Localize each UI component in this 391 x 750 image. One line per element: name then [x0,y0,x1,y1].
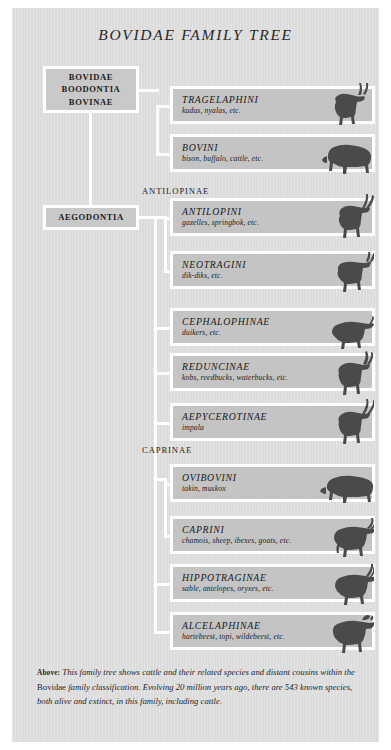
taxon-examples: sable, antelopes, oryxes, etc. [182,584,274,594]
bovidae-family-tree-page: BOVIDAE FAMILY TREE BOVIDAEBOODONTIABOVI… [0,0,391,750]
caption-roman-bovidae: Bovidae [37,682,66,692]
taxon-text-block: TRAGELAPHINIkudus, nyalas, etc. [182,94,258,117]
connector-caprinae-riser [164,478,167,535]
taxon-text-block: HIPPOTRAGINAEsable, antelopes, oryxes, e… [182,572,274,595]
connector-bovinae-riser [156,105,159,153]
connector-root-stub [139,89,159,92]
group-label-antilopinae: ANTILOPINAE [142,186,209,196]
taxon-name: HIPPOTRAGINAE [182,572,274,583]
taxon-bar-hippotraginae: HIPPOTRAGINAEsable, antelopes, oryxes, e… [170,564,375,602]
group-label-caprinae: CAPRINAE [142,445,192,455]
taxon-examples: kobs, reedbucks, waterbucks, etc. [182,373,288,383]
connector-to-tragelaphini [156,105,170,108]
taxon-text-block: BOVINIbison, buffalo, cattle, etc. [182,142,263,165]
connector-antilopinae-riser [164,216,167,270]
caption-lead: Above: [37,669,60,677]
taxon-examples: chamois, sheep, ibexes, goats, etc. [182,536,291,546]
taxon-examples: hartebeest, topi, wildebeest, etc. [182,632,285,642]
taxon-examples: impala [182,423,267,433]
taxon-bar-antilopini: ANTILOPINIgazelles, springbok, etc. [170,198,375,236]
taxon-bar-alcelaphinae: ALCELAPHINAEhartebeest, topi, wildebeest… [170,612,375,650]
taxon-name: CAPRINI [182,524,291,535]
connector-to-aepycerotinae [154,422,170,425]
taxon-name: TRAGELAPHINI [182,94,258,105]
connector-to-hippotraginae [154,583,170,586]
ancestor-box-aegodontia: AEGODONTIA [43,205,139,230]
connector-to-alcelaphinae [154,631,170,634]
taxon-name: OVIBOVINI [182,472,237,483]
page-title: BOVIDAE FAMILY TREE [12,26,379,44]
taxon-name: REDUNCINAE [182,361,288,372]
taxon-text-block: NEOTRAGINIdik-diks, etc. [182,259,246,282]
taxon-examples: kudus, nyalas, etc. [182,106,258,116]
taxon-text-block: OVIBOVINItakin, muskox [182,472,237,495]
figure-caption: Above: This family tree shows cattle and… [37,665,367,708]
connector-to-reduncinae [154,372,170,375]
taxon-text-block: CEPHALOPHINAEduikers, etc. [182,316,270,339]
ancestor-label-aegodontia: AEGODONTIA [58,211,124,223]
taxon-name: CEPHALOPHINAE [182,316,270,327]
taxon-text-block: ANTILOPINIgazelles, springbok, etc. [182,206,259,229]
taxon-name: AEPYCEROTINAE [182,411,267,422]
taxon-examples: dik-diks, etc. [182,271,246,281]
taxon-bar-tragelaphini: TRAGELAPHINIkudus, nyalas, etc. [170,86,375,124]
ancestor-label-bovidae: BOVIDAEBOODONTIABOVINAE [62,71,121,108]
diagram-panel: BOVIDAE FAMILY TREE BOVIDAEBOODONTIABOVI… [12,8,379,742]
taxon-bar-reduncinae: REDUNCINAEkobs, reedbucks, waterbucks, e… [170,353,375,391]
caption-text-2: family classification. Evolving 20 milli… [37,682,352,706]
connector-to-cephalophinae [154,327,170,330]
taxon-bar-caprini: CAPRINIchamois, sheep, ibexes, goats, et… [170,516,375,554]
taxon-name: BOVINI [182,142,263,153]
taxon-examples: takin, muskox [182,484,237,494]
taxon-bar-aepycerotinae: AEPYCEROTINAEimpala [170,403,375,441]
taxon-bar-ovibovini: OVIBOVINItakin, muskox [170,464,375,502]
taxon-name: NEOTRAGINI [182,259,246,270]
taxon-text-block: CAPRINIchamois, sheep, ibexes, goats, et… [182,524,291,547]
taxon-bar-bovini: BOVINIbison, buffalo, cattle, etc. [170,134,375,172]
taxon-bar-neotragini: NEOTRAGINIdik-diks, etc. [170,251,375,289]
ancestor-box-bovidae: BOVIDAEBOODONTIABOVINAE [43,66,139,113]
taxon-examples: bison, buffalo, cattle, etc. [182,154,263,164]
taxon-name: ANTILOPINI [182,206,259,217]
taxon-examples: duikers, etc. [182,328,270,338]
taxon-examples: gazelles, springbok, etc. [182,218,259,228]
connector-root-to-aegodontia [89,113,92,205]
taxon-text-block: ALCELAPHINAEhartebeest, topi, wildebeest… [182,620,285,643]
taxon-name: ALCELAPHINAE [182,620,285,631]
taxon-bar-cephalophinae: CEPHALOPHINAEduikers, etc. [170,308,375,346]
taxon-text-block: REDUNCINAEkobs, reedbucks, waterbucks, e… [182,361,288,384]
taxon-text-block: AEPYCEROTINAEimpala [182,411,267,434]
caption-text-1: This family tree shows cattle and their … [60,667,355,677]
connector-to-bovini [156,153,170,156]
